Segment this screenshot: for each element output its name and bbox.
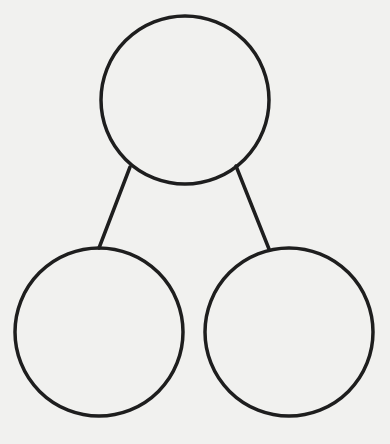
part-circle-left <box>15 248 183 416</box>
number-bond-diagram <box>0 0 390 444</box>
whole-circle <box>101 16 269 184</box>
connector-left <box>99 167 130 248</box>
connector-right <box>236 166 269 249</box>
part-circle-right <box>205 248 373 416</box>
